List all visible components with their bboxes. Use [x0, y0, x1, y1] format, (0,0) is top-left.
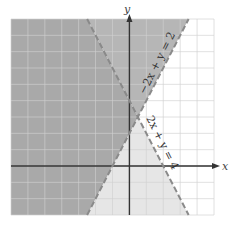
y-axis-label: y	[123, 3, 131, 16]
x-axis-label: x	[222, 160, 229, 173]
x-axis-arrow-icon	[212, 163, 220, 169]
inequality-graph: x y −2x + y = 2 2x + y = 4	[0, 0, 234, 225]
